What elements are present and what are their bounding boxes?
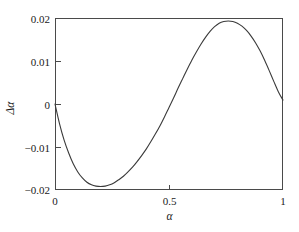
y-tick-label-0.01: 0.01 [31,56,50,68]
y-tick-label-neg0.01: −0.01 [25,142,50,154]
line-chart: 0.02 0.01 0 −0.01 −0.02 0 0.5 1 α Δα [0,0,299,232]
y-axis-ticks [56,62,61,148]
y-tick-label-neg0.02: −0.02 [25,184,50,196]
y-tick-label-0.02: 0.02 [31,13,50,25]
y-tick-label-0: 0 [45,99,51,111]
plot-frame [56,19,283,190]
data-curve-delta-alpha [55,21,283,187]
x-tick-label-1: 1 [280,195,286,207]
x-tick-label-0.5: 0.5 [163,195,177,207]
x-axis-title: α [166,210,173,222]
chart-figure: 0.02 0.01 0 −0.01 −0.02 0 0.5 1 α Δα [0,0,299,232]
y-axis-title: Δα [4,101,16,116]
x-tick-label-0: 0 [52,195,58,207]
